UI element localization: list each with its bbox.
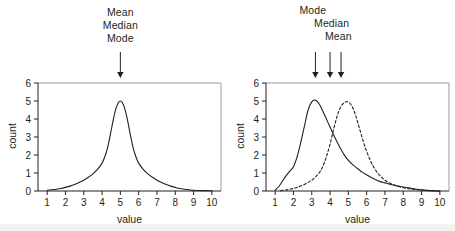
bottom-strip bbox=[0, 224, 455, 231]
plot-frame bbox=[38, 83, 221, 191]
y-tick-label: 0 bbox=[253, 186, 259, 197]
plot-axes bbox=[38, 83, 221, 191]
x-tick-label: 2 bbox=[63, 197, 69, 208]
x-tick-label: 4 bbox=[99, 197, 105, 208]
x-tick-label: 10 bbox=[206, 197, 218, 208]
x-tick-label: 7 bbox=[382, 197, 388, 208]
y-tick-label: 0 bbox=[25, 186, 31, 197]
y-tick-label: 3 bbox=[25, 132, 31, 143]
x-tick-label: 3 bbox=[309, 197, 315, 208]
x-tick-label: 9 bbox=[419, 197, 425, 208]
x-tick-label: 4 bbox=[327, 197, 333, 208]
y-tick-label: 6 bbox=[253, 78, 259, 89]
y-tick-label: 3 bbox=[253, 132, 259, 143]
y-tick-label: 5 bbox=[25, 96, 31, 107]
plot-right: 012345612345678910 bbox=[228, 0, 455, 231]
y-axis-title-right: count bbox=[234, 114, 246, 158]
x-tick-label: 5 bbox=[346, 197, 352, 208]
x-tick-label: 5 bbox=[118, 197, 124, 208]
x-tick-label: 8 bbox=[172, 197, 178, 208]
mean-arrow-head bbox=[338, 72, 344, 78]
plot-axes bbox=[266, 83, 449, 191]
mode-arrow-head bbox=[312, 72, 318, 78]
plot-frame bbox=[266, 83, 449, 191]
figure-central-tendency: Mean Median Mode 012345612345678910 valu… bbox=[0, 0, 455, 231]
y-tick-label: 1 bbox=[253, 168, 259, 179]
y-tick-label: 5 bbox=[253, 96, 259, 107]
x-tick-label: 3 bbox=[81, 197, 87, 208]
curve-symmetric-distribution bbox=[281, 102, 440, 191]
center-arrow-head bbox=[117, 72, 123, 78]
y-tick-label: 2 bbox=[25, 150, 31, 161]
x-tick-label: 6 bbox=[136, 197, 142, 208]
x-tick-label: 10 bbox=[434, 197, 446, 208]
x-tick-label: 2 bbox=[291, 197, 297, 208]
x-tick-label: 8 bbox=[400, 197, 406, 208]
y-tick-label: 4 bbox=[253, 114, 259, 125]
y-axis-title-left: count bbox=[6, 114, 18, 158]
x-tick-label: 6 bbox=[364, 197, 370, 208]
x-tick-label: 1 bbox=[272, 197, 278, 208]
y-tick-label: 2 bbox=[253, 150, 259, 161]
x-tick-label: 1 bbox=[44, 197, 50, 208]
y-tick-label: 1 bbox=[25, 168, 31, 179]
plot-left: 012345612345678910 bbox=[0, 0, 227, 231]
panel-symmetric: Mean Median Mode 012345612345678910 valu… bbox=[0, 0, 227, 231]
x-tick-label: 9 bbox=[191, 197, 197, 208]
y-tick-label: 4 bbox=[25, 114, 31, 125]
y-tick-label: 6 bbox=[25, 78, 31, 89]
curve-skewed-distribution bbox=[275, 100, 440, 191]
x-tick-label: 7 bbox=[154, 197, 160, 208]
median-arrow-head bbox=[327, 72, 333, 78]
panel-skewed: Mode Median Mean 012345612345678910 valu… bbox=[228, 0, 455, 231]
curve-symmetric-distribution bbox=[47, 101, 212, 191]
